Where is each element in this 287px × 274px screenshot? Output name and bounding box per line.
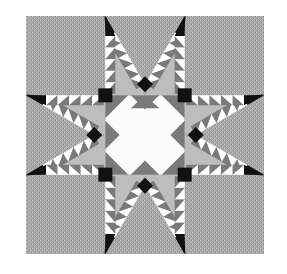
corner-black-square-0 (98, 88, 112, 102)
corner-black-square-3 (178, 168, 192, 182)
quilt-pattern-layers (26, 16, 264, 254)
corner-black-square-1 (178, 88, 192, 102)
quilt-block-illustration (0, 0, 287, 274)
corner-black-square-2 (98, 168, 112, 182)
